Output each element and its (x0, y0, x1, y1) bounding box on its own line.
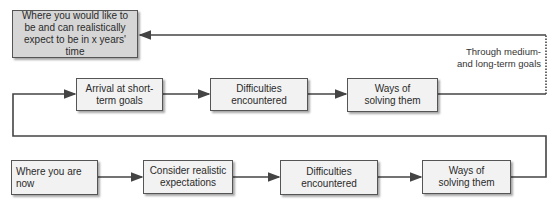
difficulties-bottom-box: Difficulties encountered (280, 160, 378, 195)
difficulties-bottom-label: Difficulties encountered (285, 166, 373, 190)
ways-top-label: Ways of solving them (352, 83, 433, 107)
where-you-are-now-box: Where you are now (11, 160, 98, 195)
loop-annotation: Through medium- and long-term goals (455, 46, 541, 70)
consider-expectations-box: Consider realistic expectations (143, 160, 233, 194)
where-now-label: Where you are now (16, 166, 93, 190)
arrival-label: Arrival at short-term goals (81, 83, 158, 107)
ways-bottom-label: Ways of solving them (427, 165, 506, 189)
arrival-short-term-box: Arrival at short-term goals (76, 78, 163, 111)
difficulties-top-box: Difficulties encountered (210, 78, 308, 111)
difficulties-top-label: Difficulties encountered (215, 83, 303, 107)
goal-box: Where you would like to be and can reali… (12, 10, 138, 58)
loop-annotation-text: Through medium- and long-term goals (457, 46, 541, 69)
ways-bottom-box: Ways of solving them (422, 160, 511, 194)
consider-label: Consider realistic expectations (148, 165, 228, 189)
ways-top-box: Ways of solving them (347, 78, 438, 112)
goal-box-label: Where you would like to be and can reali… (17, 10, 133, 58)
